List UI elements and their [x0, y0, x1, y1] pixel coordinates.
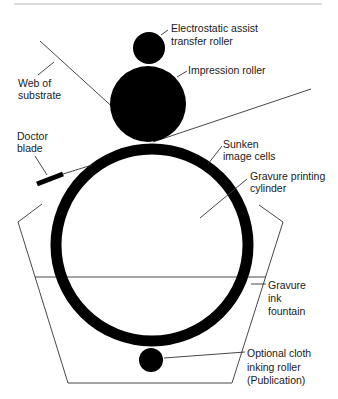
gravure-printing-cylinder	[56, 149, 248, 341]
label-impression-roller: Impression roller	[188, 64, 266, 76]
label-sunken-line1: Sunken	[223, 138, 259, 150]
label-cloth-line2: inking roller	[247, 361, 301, 373]
label-doctor-line1: Doctor	[17, 130, 48, 142]
label-doctor-line2: blade	[17, 142, 43, 154]
label-web-line1: Web of	[18, 77, 51, 89]
label-sunken-line2: image cells	[223, 150, 276, 162]
label-cylinder-line1: Gravure printing	[250, 170, 325, 182]
label-fountain-line3: fountain	[268, 305, 306, 317]
label-cloth-line1: Optional cloth	[247, 347, 311, 359]
label-fountain-line1: Gravure	[268, 279, 306, 291]
label-electrostatic-line1: Electrostatic assist	[171, 22, 258, 34]
label-cloth-line3: (Publication)	[247, 374, 305, 386]
electrostatic-assist-transfer-roller	[133, 32, 165, 64]
impression-roller	[110, 66, 186, 142]
cloth-inking-roller	[139, 348, 163, 372]
label-cylinder-line2: cylinder	[250, 182, 287, 194]
label-web-line2: substrate	[18, 89, 61, 101]
label-electrostatic-line2: transfer roller	[171, 35, 233, 47]
gravure-diagram: Electrostatic assist transfer roller Imp…	[0, 0, 338, 399]
label-fountain-line2: ink	[268, 292, 282, 304]
